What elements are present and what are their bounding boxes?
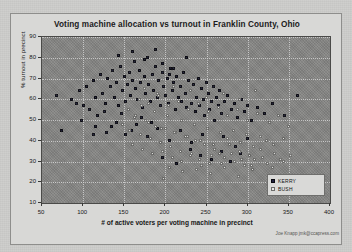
scatter-point-kerry <box>143 75 146 78</box>
gridline-horizontal <box>42 141 330 142</box>
scatter-point-kerry <box>147 83 150 86</box>
scatter-point-bush <box>138 98 141 101</box>
scatter-point-kerry <box>162 85 165 88</box>
gridline-horizontal <box>42 37 330 38</box>
scatter-point-bush <box>180 119 183 122</box>
scatter-point-bush <box>277 114 280 117</box>
scatter-point-kerry <box>123 75 126 78</box>
x-axis-tick-label: 100 <box>69 209 95 215</box>
scatter-point-kerry <box>226 94 229 97</box>
scatter-point-kerry <box>177 96 180 99</box>
scatter-point-bush <box>236 108 239 111</box>
gridline-horizontal <box>42 99 330 100</box>
scatter-point-bush <box>143 87 146 90</box>
scatter-point-bush <box>251 168 254 171</box>
scatter-point-kerry <box>223 100 226 103</box>
chart-legend[interactable]: KERRY BUSH <box>267 174 325 196</box>
legend-item-kerry[interactable]: KERRY <box>271 177 321 185</box>
scatter-point-kerry <box>243 110 246 113</box>
scatter-point-kerry <box>185 56 188 59</box>
scatter-point-bush <box>223 156 226 159</box>
x-axis-tick-mark <box>206 203 207 206</box>
scatter-point-kerry <box>205 81 208 84</box>
scatter-point-kerry <box>161 156 164 159</box>
scatter-point-kerry <box>203 114 206 117</box>
scatter-point-bush <box>166 114 169 117</box>
scatter-point-bush <box>160 127 163 130</box>
scatter-point-kerry <box>80 119 83 122</box>
scatter-point-bush <box>161 150 164 153</box>
scatter-point-kerry <box>150 121 153 124</box>
scatter-point-kerry <box>220 112 223 115</box>
scatter-point-bush <box>179 150 182 153</box>
scatter-point-kerry <box>179 85 182 88</box>
scatter-point-bush <box>131 143 134 146</box>
scatter-point-kerry <box>85 85 88 88</box>
y-axis-tick-mark <box>38 161 41 162</box>
scatter-point-bush <box>181 170 184 173</box>
scatter-point-bush <box>164 127 167 130</box>
scatter-point-kerry <box>128 71 131 74</box>
scatter-point-bush <box>197 102 200 105</box>
scatter-point-kerry <box>182 71 185 74</box>
scatter-point-kerry <box>121 89 124 92</box>
scatter-point-bush <box>287 125 290 128</box>
scatter-point-bush <box>219 131 222 134</box>
scatter-point-kerry <box>117 104 120 107</box>
scatter-point-kerry <box>192 83 195 86</box>
scatter-point-kerry <box>82 104 85 107</box>
scatter-point-kerry <box>94 125 97 128</box>
scatter-point-bush <box>240 158 243 161</box>
scatter-point-kerry <box>99 73 102 76</box>
scatter-point-bush <box>153 110 156 113</box>
scatter-point-bush <box>250 164 253 167</box>
scatter-point-bush <box>159 141 162 144</box>
scatter-point-bush <box>238 98 241 101</box>
scatter-point-bush <box>238 150 241 153</box>
scatter-point-kerry <box>180 100 183 103</box>
x-axis-tick-mark <box>164 203 165 206</box>
scatter-point-bush <box>256 112 259 115</box>
scatter-point-kerry <box>201 133 204 136</box>
scatter-point-kerry <box>172 67 175 70</box>
scatter-point-kerry <box>144 92 147 95</box>
scatter-point-bush <box>259 135 262 138</box>
scatter-point-bush <box>273 152 276 155</box>
gridline-vertical <box>330 37 331 203</box>
scatter-point-bush <box>121 123 124 126</box>
scatter-point-kerry <box>115 81 118 84</box>
y-axis-tick-mark <box>38 98 41 99</box>
legend-item-bush[interactable]: BUSH <box>271 185 321 193</box>
scatter-point-kerry <box>154 65 157 68</box>
scatter-point-bush <box>147 102 150 105</box>
scatter-point-bush <box>193 123 196 126</box>
y-axis-tick-label: 80 <box>11 54 36 60</box>
scatter-point-bush <box>228 143 231 146</box>
scatter-point-bush <box>147 121 150 124</box>
scatter-point-bush <box>172 85 175 88</box>
scatter-point-kerry <box>234 145 237 148</box>
scatter-point-bush <box>209 172 212 175</box>
y-axis-tick-label: 70 <box>11 75 36 81</box>
scatter-point-bush <box>140 104 143 107</box>
gridline-vertical <box>124 37 125 203</box>
scatter-point-kerry <box>174 108 177 111</box>
gridline-vertical <box>207 37 208 203</box>
scatter-point-kerry <box>131 50 134 53</box>
scatter-point-bush <box>239 141 242 144</box>
scatter-point-kerry <box>168 139 171 142</box>
legend-label-bush: BUSH <box>278 186 293 192</box>
scatter-point-kerry <box>55 94 58 97</box>
scatter-point-kerry <box>184 92 187 95</box>
y-axis-tick-label: 20 <box>11 178 36 184</box>
scatter-point-kerry <box>197 77 200 80</box>
gridline-vertical <box>165 37 166 203</box>
y-axis-tick-mark <box>38 181 41 182</box>
scatter-point-bush <box>195 168 198 171</box>
y-axis-tick-label: 60 <box>11 95 36 101</box>
scatter-point-bush <box>212 143 215 146</box>
x-axis-tick-label: 300 <box>234 209 260 215</box>
scatter-point-kerry <box>194 110 197 113</box>
x-axis-tick-mark <box>288 203 289 206</box>
scatter-point-kerry <box>189 148 192 151</box>
